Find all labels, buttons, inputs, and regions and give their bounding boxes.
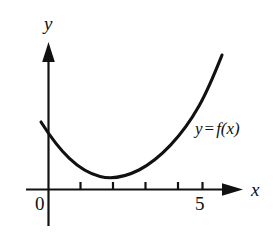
function-graph-figure: y x 0 5 y=f(x) (0, 0, 279, 248)
x-tick-label-5: 5 (195, 194, 205, 213)
curve-label-y: y (195, 119, 203, 138)
curve-label-fx: f(x) (216, 119, 240, 138)
function-curve (41, 55, 222, 178)
x-tick-label-0: 0 (35, 194, 45, 213)
x-axis-label: x (251, 180, 259, 199)
y-axis-label: y (44, 14, 52, 33)
x-axis-arrowhead (222, 183, 243, 196)
curve-equation-label: y=f(x) (195, 120, 240, 137)
curve-label-equals: = (203, 119, 217, 138)
y-axis-arrowhead (42, 42, 55, 62)
